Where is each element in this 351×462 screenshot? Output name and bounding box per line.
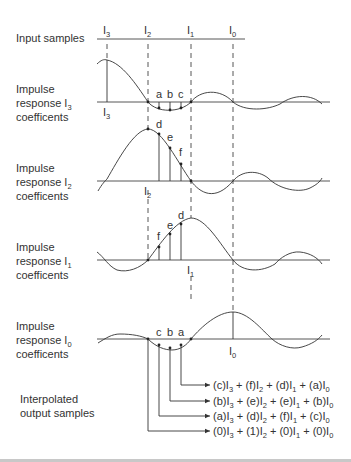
label-impulse-i1: Impulse response I1 coefficents [16,241,72,281]
svg-text:Impulse: Impulse [16,162,55,174]
svg-text:I0: I0 [229,24,236,39]
coeff-c: c [178,88,184,100]
coeff-a: a [178,326,185,338]
svg-text:I1: I1 [187,264,194,279]
coeff-f: f [157,230,161,242]
output-equation-2: (b)I3 + (e)I2 + (e)I1 + (b)I0 [213,395,333,410]
svg-text:I0: I0 [229,345,236,360]
svg-text:response I1: response I1 [16,255,72,270]
label-impulse-i3: Impulse response I3 coefficents [16,83,72,123]
output-equation-4: (0)I3 + (1)I2 + (0)I1 + (0)I0 [213,425,333,440]
label-interpolated-output: Interpolated output samples [20,393,95,419]
output-equations: (c)I3 + (f)I2 + (d)I1 + (a)I0 (b)I3 + (e… [213,379,333,440]
impulse-response-i2-plot: d e f I2 [97,118,330,200]
coeff-d: d [178,209,184,221]
svg-text:I3: I3 [103,106,110,121]
svg-text:Impulse: Impulse [16,241,55,253]
label-impulse-i0: Impulse response I0 coefficents [16,320,72,360]
input-sample-labels: I3 I2 I1 I0 [103,24,236,39]
coeff-e: e [167,219,173,231]
label-input-samples: Input samples [16,32,85,44]
svg-text:response I3: response I3 [16,97,72,112]
coeff-e: e [167,131,173,143]
svg-text:I2: I2 [144,24,151,39]
svg-text:Impulse: Impulse [16,320,55,332]
coeff-b: b [167,88,173,100]
impulse-response-i1-plot: f e d I1 [97,209,330,279]
coeff-f: f [179,146,183,158]
svg-text:response I2: response I2 [16,176,72,191]
coeff-a: a [156,88,163,100]
svg-text:I3: I3 [103,24,110,39]
svg-text:coefficents: coefficents [16,111,69,123]
svg-text:output samples: output samples [20,407,95,419]
coeff-b: b [167,326,173,338]
polyphase-interpolation-diagram: Input samples Impulse response I3 coeffi… [0,0,351,462]
label-impulse-i2: Impulse response I2 coefficents [16,162,72,202]
output-connectors [148,339,210,431]
svg-text:coefficents: coefficents [16,269,69,281]
coeff-d: d [156,118,162,130]
impulse-response-i3-plot: a b c I3 [97,60,330,121]
coeff-c: c [156,326,162,338]
svg-text:Interpolated: Interpolated [20,393,78,405]
output-equation-3: (a)I3 + (d)I2 + (f)I1 + (c)I0 [213,410,330,425]
svg-text:coefficents: coefficents [16,348,69,360]
impulse-response-i0-plot: c b a I0 [97,312,330,360]
svg-text:I1: I1 [187,24,194,39]
svg-text:I2: I2 [144,185,151,200]
svg-text:coefficents: coefficents [16,190,69,202]
output-equation-1: (c)I3 + (f)I2 + (d)I1 + (a)I0 [213,379,330,394]
svg-text:Impulse: Impulse [16,83,55,95]
svg-text:response I0: response I0 [16,334,72,349]
